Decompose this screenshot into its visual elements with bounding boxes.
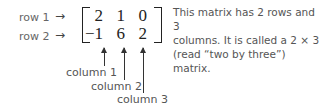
column-1-label: column 1 (66, 66, 117, 79)
matrix-description: This matrix has 2 rows and 3 columns. It… (173, 5, 323, 75)
row-1-arrow-icon: → (55, 9, 65, 23)
matrix-cell-1-2: 1 (105, 6, 125, 26)
matrix-cell-1-3: 0 (127, 6, 147, 26)
column-2-label: column 2 (91, 80, 142, 93)
column-1-arrow-icon (104, 48, 105, 66)
column-2-arrow-icon (124, 48, 125, 80)
row-1-label: row 1 (19, 11, 50, 24)
matrix-cell-2-3: 2 (127, 24, 147, 44)
description-line-3: (read “two by three”) matrix. (173, 47, 323, 75)
row-2-label: row 2 (19, 30, 50, 43)
row-2-arrow-icon: → (55, 28, 65, 42)
column-3-label: column 3 (117, 93, 168, 105)
matrix-cell-2-1: −1 (83, 24, 103, 44)
column-3-arrow-icon (143, 48, 144, 93)
right-bracket (154, 7, 162, 43)
description-line-1: This matrix has 2 rows and 3 (173, 5, 323, 33)
matrix-cell-1-1: 2 (83, 6, 103, 26)
matrix-cell-2-2: 6 (105, 24, 125, 44)
description-line-2: columns. It is called a 2 × 3 (173, 33, 323, 47)
